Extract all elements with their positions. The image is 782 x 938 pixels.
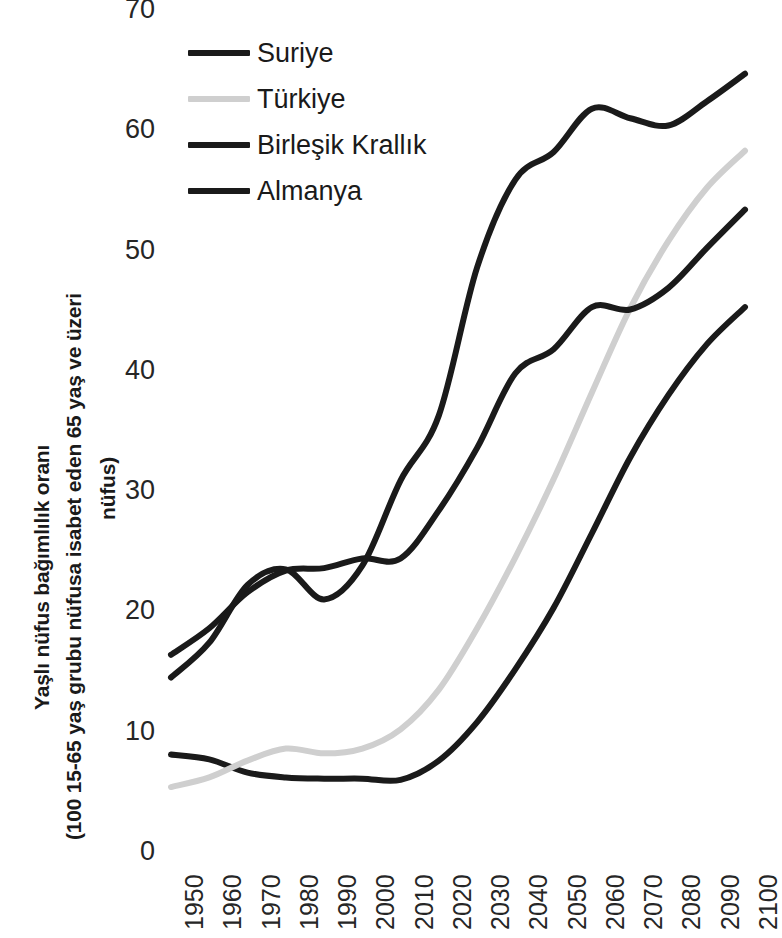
x-tick-2040: 2040 (524, 874, 553, 930)
x-tick-2080: 2080 (677, 874, 706, 930)
legend-label-almanya: Almanya (257, 178, 362, 205)
legend-label-birlesik-krallik: Birleşik Krallık (257, 132, 427, 159)
y-tick-30: 30 (101, 477, 155, 504)
y-tick-70: 70 (101, 0, 155, 23)
legend-swatch-birlesik-krallik (188, 142, 250, 148)
y-tick-10: 10 (101, 718, 155, 745)
x-tick-2020: 2020 (448, 874, 477, 930)
x-tick-2060: 2060 (601, 874, 630, 930)
x-tick-1960: 1960 (218, 874, 247, 930)
series-line-turkiye (171, 151, 745, 787)
x-tick-2050: 2050 (563, 874, 592, 930)
chart-legend: Suriye Türkiye Birleşik Krallık Almanya (188, 30, 508, 214)
x-tick-1970: 1970 (257, 874, 286, 930)
legend-item-birlesik-krallik[interactable]: Birleşik Krallık (188, 122, 508, 168)
series-line-suriye (171, 307, 745, 781)
y-tick-60: 60 (101, 116, 155, 143)
x-tick-1950: 1950 (180, 874, 209, 930)
x-tick-1980: 1980 (295, 874, 324, 930)
series-line-birlesik-krallik (171, 210, 745, 655)
x-tick-2090: 2090 (716, 874, 745, 930)
legend-label-suriye: Suriye (257, 40, 334, 67)
y-tick-40: 40 (101, 357, 155, 384)
x-tick-2010: 2010 (410, 874, 439, 930)
legend-item-almanya[interactable]: Almanya (188, 168, 508, 214)
x-tick-1990: 1990 (333, 874, 362, 930)
legend-item-turkiye[interactable]: Türkiye (188, 76, 508, 122)
y-tick-50: 50 (101, 237, 155, 264)
legend-label-turkiye: Türkiye (257, 86, 346, 113)
x-tick-2070: 2070 (639, 874, 668, 930)
x-tick-2000: 2000 (371, 874, 400, 930)
x-tick-2030: 2030 (486, 874, 515, 930)
x-tick-2100: 2100 (754, 874, 782, 930)
y-tick-0: 0 (101, 838, 155, 865)
legend-item-suriye[interactable]: Suriye (188, 30, 508, 76)
legend-swatch-suriye (188, 50, 250, 56)
y-tick-20: 20 (101, 597, 155, 624)
legend-swatch-almanya (188, 188, 250, 194)
legend-swatch-turkiye (188, 96, 250, 102)
y-axis-tick-labels: 010203040506070 (50, 0, 155, 880)
